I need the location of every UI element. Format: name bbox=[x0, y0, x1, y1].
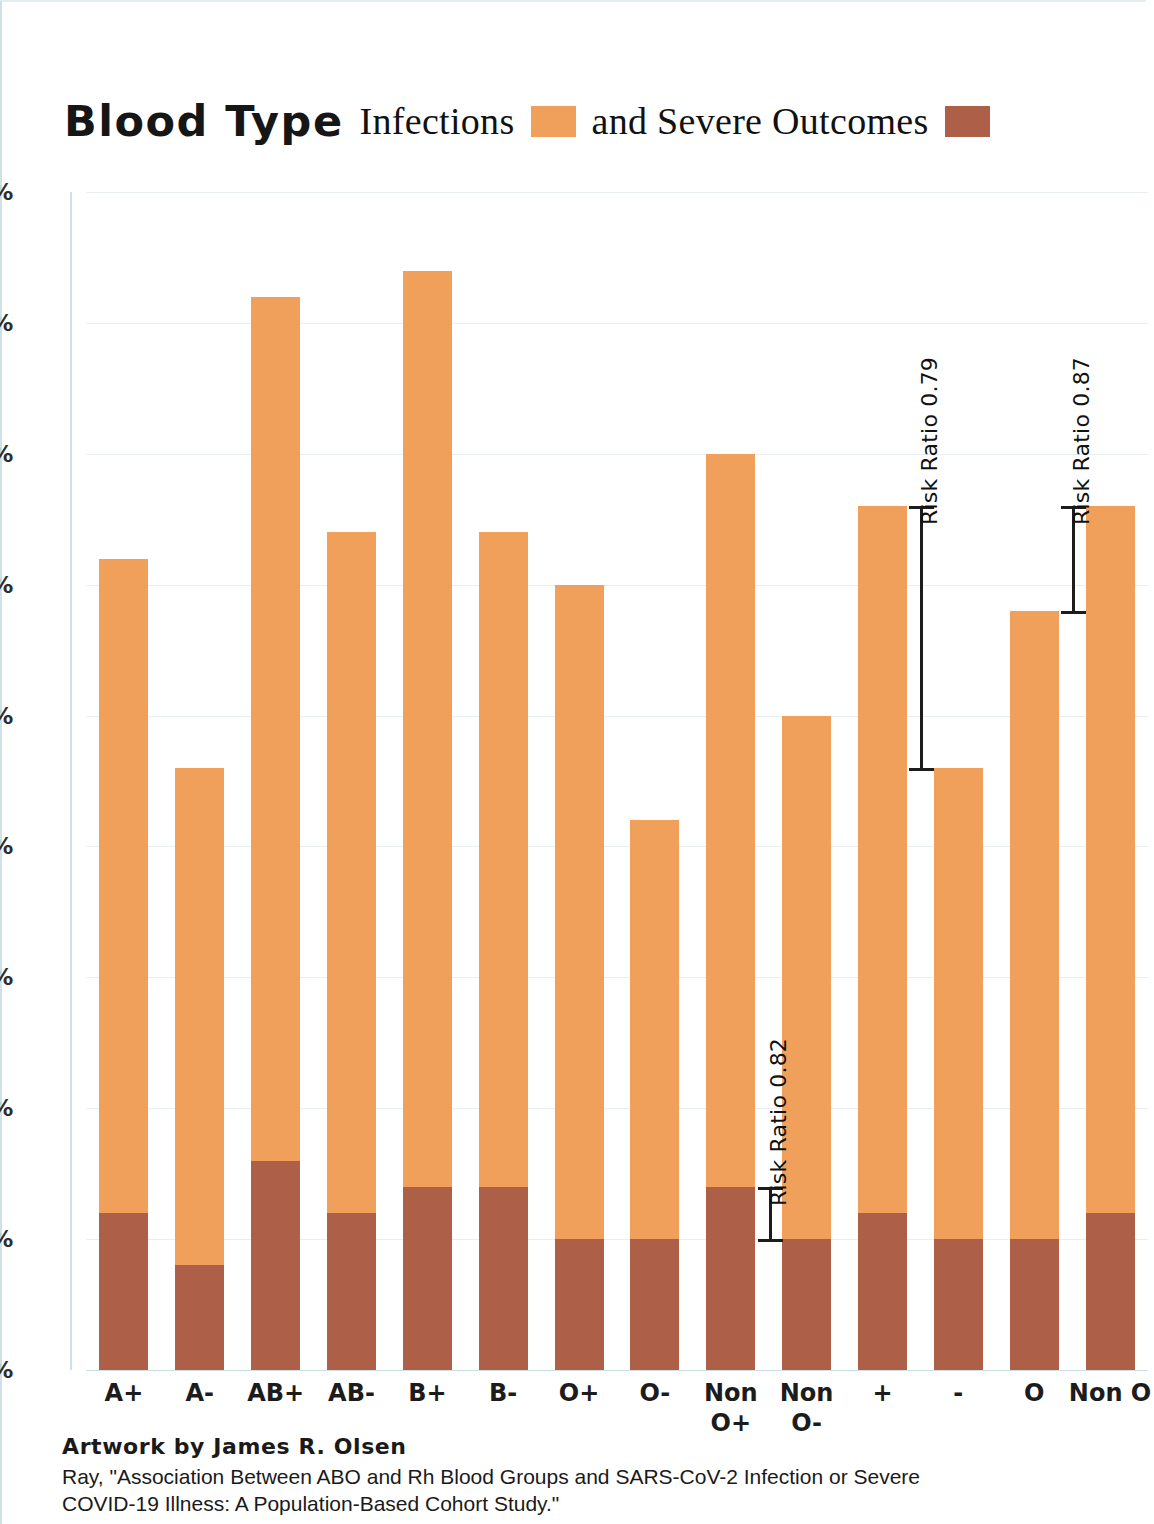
gridline bbox=[86, 716, 1148, 717]
y-axis-tick-label: 3.0% bbox=[0, 572, 68, 598]
artwork-credit: Artwork by James R. Olsen bbox=[62, 1434, 1122, 1459]
citation-line-2: COVID-19 Illness: A Population-Based Coh… bbox=[62, 1490, 1122, 1517]
y-axis-tick-label: 4.0% bbox=[0, 310, 68, 336]
bar-segment-severe-outcomes bbox=[479, 1187, 528, 1370]
bar-column bbox=[555, 585, 604, 1370]
bar-segment-severe-outcomes bbox=[403, 1187, 452, 1370]
footer: Artwork by James R. Olsen Ray, "Associat… bbox=[62, 1434, 1122, 1517]
x-axis-tick-label: A+ bbox=[80, 1378, 168, 1408]
annotation-cap-tick bbox=[1061, 611, 1086, 614]
bar-segment-severe-outcomes bbox=[630, 1239, 679, 1370]
gridline bbox=[86, 977, 1148, 978]
bar-segment-severe-outcomes bbox=[555, 1239, 604, 1370]
bar-segment-severe-outcomes bbox=[327, 1213, 376, 1370]
x-axis-tick-label: - bbox=[914, 1378, 1002, 1408]
gridline bbox=[86, 1370, 1148, 1371]
annotation-label: Risk Ratio 0.79 bbox=[917, 357, 942, 525]
x-axis-tick-label: B- bbox=[459, 1378, 547, 1408]
x-axis-tick-label: + bbox=[839, 1378, 927, 1408]
gridline bbox=[86, 585, 1148, 586]
bar-segment-severe-outcomes bbox=[706, 1187, 755, 1370]
legend-label-infections: Infections bbox=[360, 99, 515, 143]
bar-column bbox=[1086, 506, 1135, 1370]
y-axis-tick-label: 0.0% bbox=[0, 1357, 68, 1383]
annotation-cap-tick bbox=[758, 1239, 783, 1242]
annotation-cap-tick bbox=[909, 768, 934, 771]
bar-segment-severe-outcomes bbox=[251, 1161, 300, 1370]
chart-title: Blood Type Infections and Severe Outcome… bbox=[64, 90, 1134, 152]
bar-column bbox=[99, 559, 148, 1371]
gridline bbox=[86, 1108, 1148, 1109]
x-axis-tick-label: Non O+ bbox=[687, 1378, 775, 1438]
bar-segment-severe-outcomes bbox=[1010, 1239, 1059, 1370]
bar-column bbox=[175, 768, 224, 1370]
bar-column bbox=[858, 506, 907, 1370]
x-axis-tick-label: A- bbox=[156, 1378, 244, 1408]
gridline bbox=[86, 846, 1148, 847]
bar-column bbox=[1010, 611, 1059, 1370]
bar-column bbox=[934, 768, 983, 1370]
y-axis-tick-label: 4.5% bbox=[0, 179, 68, 205]
bar-segment-severe-outcomes bbox=[782, 1239, 831, 1370]
severe-outcomes-color-swatch bbox=[945, 106, 990, 137]
citation-line-1: Ray, "Association Between ABO and Rh Blo… bbox=[62, 1463, 1122, 1490]
gridline bbox=[86, 454, 1148, 455]
y-axis-tick-label: 3.5% bbox=[0, 441, 68, 467]
annotation-vertical-line bbox=[920, 506, 923, 768]
annotation-label: Risk Ratio 0.87 bbox=[1069, 357, 1094, 525]
x-axis-tick-label: O- bbox=[611, 1378, 699, 1408]
y-axis-tick-label: 1.5% bbox=[0, 964, 68, 990]
x-axis-tick-label: AB- bbox=[308, 1378, 396, 1408]
x-axis-tick-label: O+ bbox=[535, 1378, 623, 1408]
x-axis-tick-label: Non O- bbox=[763, 1378, 851, 1438]
x-axis-tick-label: Non O bbox=[1066, 1378, 1154, 1408]
bar-segment-severe-outcomes bbox=[858, 1213, 907, 1370]
legend-label-severe-outcomes: and Severe Outcomes bbox=[592, 99, 929, 143]
bar-column bbox=[327, 532, 376, 1370]
y-axis-tick-label: 2.0% bbox=[0, 833, 68, 859]
y-axis-tick-label: 0.5% bbox=[0, 1226, 68, 1252]
bar-column bbox=[479, 532, 528, 1370]
y-axis-tick-label: 2.5% bbox=[0, 703, 68, 729]
bar-segment-severe-outcomes bbox=[1086, 1213, 1135, 1370]
bar-segment-severe-outcomes bbox=[99, 1213, 148, 1370]
bar-column bbox=[403, 271, 452, 1370]
x-axis-tick-label: O bbox=[990, 1378, 1078, 1408]
bar-column bbox=[630, 820, 679, 1370]
x-axis-tick-label: AB+ bbox=[232, 1378, 320, 1408]
bar-segment-severe-outcomes bbox=[175, 1265, 224, 1370]
page-title-bold: Blood Type bbox=[64, 96, 344, 146]
plot-area: 4.5%4.0%3.5%3.0%2.5%2.0%1.5%1.0%0.5%0.0%… bbox=[86, 192, 1148, 1370]
y-axis-line bbox=[70, 192, 72, 1370]
annotation-label: Risk Ratio 0.82 bbox=[766, 1038, 791, 1206]
x-axis-tick-label: B+ bbox=[383, 1378, 471, 1408]
gridline bbox=[86, 323, 1148, 324]
bar-column bbox=[706, 454, 755, 1370]
infections-color-swatch bbox=[531, 106, 576, 137]
bar-column bbox=[251, 297, 300, 1370]
y-axis-tick-label: 1.0% bbox=[0, 1095, 68, 1121]
gridline bbox=[86, 192, 1148, 193]
bar-segment-severe-outcomes bbox=[934, 1239, 983, 1370]
gridline bbox=[86, 1239, 1148, 1240]
